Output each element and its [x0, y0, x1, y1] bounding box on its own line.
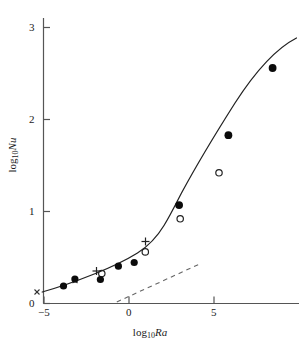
marker-filled-circle — [97, 276, 104, 283]
x-tick-label-minus5: −5 — [38, 307, 50, 318]
y-tick-label-0: 0 — [29, 298, 35, 309]
plot-canvas — [0, 0, 302, 340]
chart-figure: 0 1 2 3 −5 0 5 log10Ra log10Nu — [0, 0, 302, 340]
marker-filled-circle — [175, 201, 183, 209]
x-axis-title-subscript: 10 — [147, 331, 155, 340]
y-tick-label-1: 1 — [29, 206, 35, 217]
marker-open-circle — [216, 170, 222, 176]
marker-open-circle-group — [99, 170, 223, 277]
dashed-asymptote-line — [117, 264, 199, 302]
marker-filled-circle — [269, 64, 277, 72]
marker-filled-circle-group — [60, 64, 277, 290]
solid-correlation-curve — [42, 38, 296, 292]
x-tick-label-0: 0 — [126, 307, 132, 318]
x-axis-title-variable: Ra — [155, 326, 167, 338]
x-tick-label-5: 5 — [211, 307, 217, 318]
marker-cross — [35, 290, 40, 295]
marker-filled-circle — [60, 282, 67, 289]
marker-cross-group — [35, 278, 78, 295]
marker-open-circle — [177, 216, 183, 222]
marker-filled-circle — [225, 131, 233, 139]
y-axis-title-subscript: 10 — [11, 150, 20, 158]
y-axis-title: log10Nu — [2, 120, 20, 190]
marker-filled-circle — [115, 263, 122, 270]
x-axis-ticks — [44, 297, 214, 304]
marker-plus-group — [93, 238, 150, 276]
y-axis-ticks — [44, 28, 51, 304]
marker-open-circle — [142, 249, 148, 255]
marker-filled-circle — [131, 259, 138, 266]
x-axis-title: log10Ra — [105, 322, 195, 340]
marker-filled-circle — [71, 276, 78, 283]
y-tick-label-3: 3 — [29, 22, 35, 33]
y-tick-label-2: 2 — [29, 114, 35, 125]
x-axis-title-prefix: log — [133, 326, 147, 338]
y-axis-title-variable: Nu — [6, 138, 18, 151]
y-axis-title-prefix: log — [6, 158, 18, 172]
